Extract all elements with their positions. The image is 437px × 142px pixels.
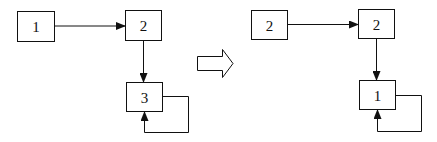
node-before-b: 2 [126, 11, 162, 41]
after-graph: 2 2 1 [252, 10, 422, 132]
node-label: 1 [374, 88, 382, 104]
node-after-c: 1 [360, 81, 396, 110]
node-after-b: 2 [359, 10, 395, 39]
node-before-a: 1 [18, 12, 55, 42]
node-label: 1 [32, 19, 40, 35]
before-graph: 1 2 3 [18, 11, 189, 133]
diagram-canvas: 1 2 3 2 2 1 [0, 0, 437, 142]
node-label: 2 [266, 18, 274, 34]
node-label: 2 [373, 17, 381, 33]
node-label: 3 [141, 90, 149, 106]
node-label: 2 [140, 18, 148, 34]
node-after-a: 2 [252, 11, 288, 40]
node-before-c: 3 [127, 83, 163, 112]
outline-right-arrow-icon [198, 50, 234, 78]
